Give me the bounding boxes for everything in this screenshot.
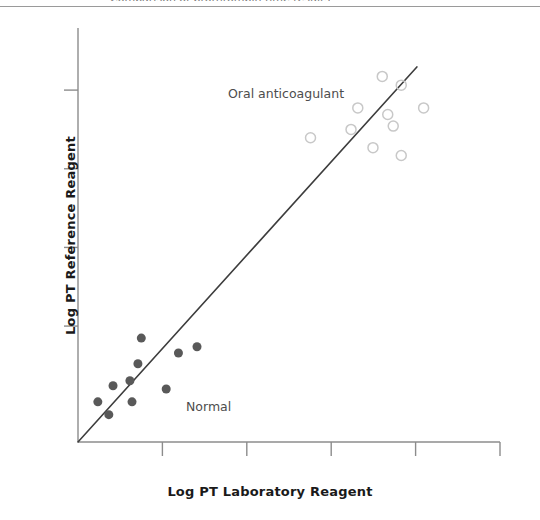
data-point <box>125 376 134 385</box>
data-point <box>193 342 202 351</box>
series-oral-anticoagulant <box>306 71 429 160</box>
regression-line <box>78 67 417 442</box>
oral-anticoagulant-label: Oral anticoagulant <box>228 86 344 101</box>
data-point <box>162 385 171 394</box>
data-point <box>346 124 356 134</box>
x-axis-title: Log PT Laboratory Reagent <box>0 484 540 499</box>
data-point <box>353 103 363 113</box>
data-point <box>388 121 398 131</box>
y-axis-title: Log PT Reference Reagent <box>63 86 78 386</box>
normal-label: Normal <box>186 399 231 414</box>
data-point <box>104 410 113 419</box>
data-point <box>137 334 146 343</box>
data-point <box>133 359 142 368</box>
data-point <box>306 133 316 143</box>
data-point <box>93 397 102 406</box>
data-point <box>377 71 387 81</box>
data-point <box>396 151 406 161</box>
data-point <box>128 397 137 406</box>
scatter-plot <box>0 0 540 520</box>
data-point <box>174 348 183 357</box>
data-point <box>109 381 118 390</box>
data-point <box>419 103 429 113</box>
data-point <box>383 110 393 120</box>
figure-container: Comparison of prothrombin time results L… <box>0 0 540 520</box>
data-point <box>368 143 378 153</box>
